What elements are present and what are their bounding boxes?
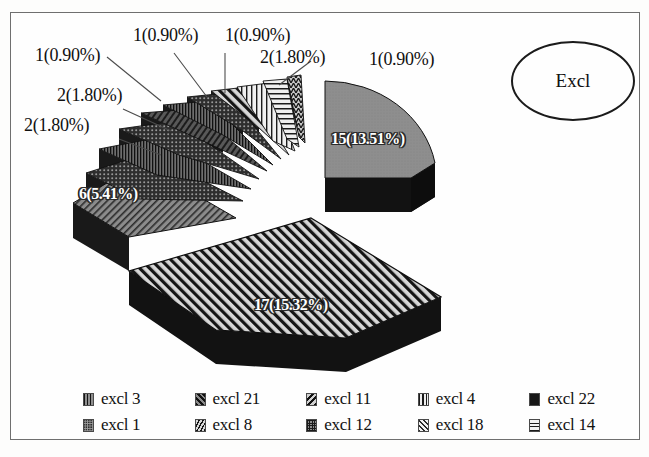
legend-row: excl 3 excl 21 excl 11 excl 4 excl 22 [83, 389, 641, 409]
legend-label: excl 1 [101, 415, 140, 435]
chart-legend: excl 3 excl 21 excl 11 excl 4 excl 22 [11, 385, 641, 439]
legend-item-excl-14[interactable]: excl 14 [529, 415, 641, 435]
callout-1c: 1(0.90%) [225, 25, 290, 46]
legend-item-excl-1[interactable]: excl 1 [83, 415, 195, 435]
legend-label: excl 21 [213, 389, 260, 409]
legend-label: excl 14 [547, 415, 594, 435]
chart-title-ellipse: Excl [511, 41, 635, 121]
legend-swatch-icon [83, 419, 94, 432]
callout-2a: 2(1.80%) [260, 47, 325, 68]
legend-label: excl 8 [213, 415, 252, 435]
legend-item-excl-22[interactable]: excl 22 [529, 389, 641, 409]
legend-swatch-icon [306, 393, 317, 406]
legend-label: excl 11 [324, 389, 371, 409]
callout-2c: 2(1.80%) [24, 115, 89, 136]
slice-label-15: 15(13.51%) [331, 130, 405, 148]
legend-swatch-icon [83, 393, 94, 406]
pie-chart-area: 1(0.90%) 1(0.90%) 1(0.90%) 1(0.90%) 2(1.… [11, 13, 641, 383]
legend-label: excl 4 [436, 389, 475, 409]
legend-item-excl-21[interactable]: excl 21 [195, 389, 307, 409]
legend-label: excl 18 [436, 415, 483, 435]
callout-1d: 1(0.90%) [369, 49, 434, 70]
slice-label-6: 6(5.41%) [79, 185, 138, 203]
legend-item-excl-11[interactable]: excl 11 [306, 389, 418, 409]
legend-swatch-icon [529, 419, 540, 432]
legend-label: excl 3 [101, 389, 140, 409]
legend-row: excl 1 excl 8 excl 12 excl 18 excl 14 [83, 415, 641, 435]
legend-label: excl 22 [547, 389, 594, 409]
legend-label: excl 12 [324, 415, 371, 435]
legend-swatch-icon [195, 419, 206, 432]
legend-item-excl-18[interactable]: excl 18 [418, 415, 530, 435]
legend-item-excl-3[interactable]: excl 3 [83, 389, 195, 409]
legend-item-excl-12[interactable]: excl 12 [306, 415, 418, 435]
slice-label-17: 17(15.32%) [254, 296, 328, 314]
callout-1a: 1(0.90%) [35, 45, 100, 66]
callout-1b: 1(0.90%) [133, 25, 198, 46]
chart-title: Excl [556, 70, 591, 92]
callout-2b: 2(1.80%) [57, 85, 122, 106]
legend-item-excl-8[interactable]: excl 8 [195, 415, 307, 435]
legend-swatch-icon [529, 393, 540, 406]
legend-swatch-icon [195, 393, 206, 406]
legend-swatch-icon [306, 419, 317, 432]
chart-frame: 1(0.90%) 1(0.90%) 1(0.90%) 1(0.90%) 2(1.… [10, 12, 640, 440]
legend-swatch-icon [418, 393, 429, 406]
legend-item-excl-4[interactable]: excl 4 [418, 389, 530, 409]
legend-swatch-icon [418, 419, 429, 432]
